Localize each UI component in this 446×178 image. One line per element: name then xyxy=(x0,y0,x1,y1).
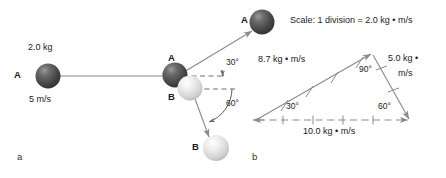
ball-b-at-collision xyxy=(178,76,203,101)
angle-label-left-30: 30° xyxy=(286,102,299,112)
physics-collision-figure: 2.0 kg A 5 m/s A B A B 30° 60° a Scale: … xyxy=(0,0,446,178)
ball-a-initial xyxy=(36,64,61,89)
ball-a-collision-label: A xyxy=(168,53,175,64)
angle-label-right-60: 60° xyxy=(378,102,391,112)
ball-b-final-label: B xyxy=(192,142,199,153)
ball-a-initial-label: A xyxy=(14,70,21,81)
vector-left-label: 8.7 kg • m/s xyxy=(258,54,305,64)
vector-right-label-line2: m/s xyxy=(398,68,413,78)
velocity-arrow-b-final xyxy=(194,96,209,137)
panel-b-id: b xyxy=(252,152,257,163)
scale-note: Scale: 1 division = 2.0 kg • m/s xyxy=(290,15,412,25)
panel-a-id: a xyxy=(17,152,22,163)
hypotenuse-tick xyxy=(306,86,313,97)
hypotenuse-tick xyxy=(331,72,338,83)
mass-label-a: 2.0 kg xyxy=(28,42,53,52)
angle-label-b-60: 60° xyxy=(226,99,239,109)
vector-base-label: 10.0 kg • m/s xyxy=(303,126,355,136)
figure-vector-layer xyxy=(0,0,446,178)
ball-b-final xyxy=(203,135,229,161)
ball-a-final-label: A xyxy=(241,15,248,26)
ball-a-final xyxy=(250,10,275,35)
angle-label-apex-90: 90° xyxy=(359,65,372,75)
angle-label-a-30: 30° xyxy=(226,58,239,68)
speed-label-a: 5 m/s xyxy=(29,94,51,104)
velocity-arrow-a-final xyxy=(184,31,252,72)
ball-b-collision-label: B xyxy=(168,92,175,103)
vector-right-label-line1: 5.0 kg • xyxy=(388,53,418,63)
